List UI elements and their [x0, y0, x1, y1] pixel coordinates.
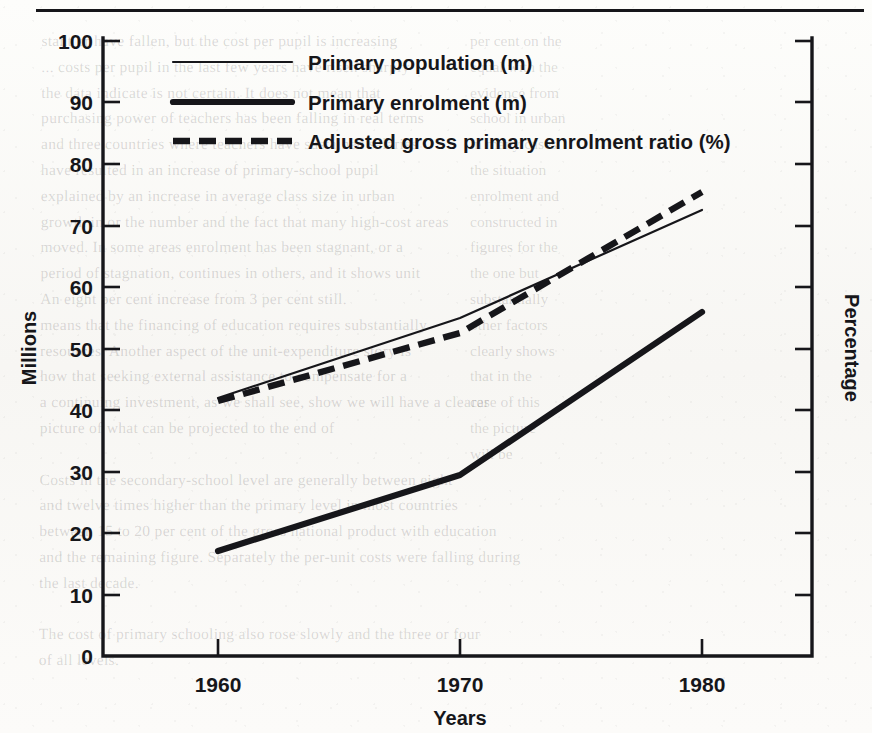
chart-legend: Primary population (m) Primary enrolment…: [173, 51, 731, 153]
y-axis-title: Millions: [18, 311, 40, 385]
line-chart: 100 90 80 70 60 50 40 30 20 10 0 1960 19…: [0, 0, 872, 733]
x-axis-title: Years: [433, 707, 486, 729]
y-axis-ticks: [103, 41, 120, 595]
y-tick-label-50: 50: [70, 338, 93, 361]
y-tick-label-20: 20: [70, 522, 93, 545]
y-tick-label-70: 70: [70, 215, 93, 238]
x-tick-label-1960: 1960: [195, 673, 242, 696]
series-adjusted-gross-ratio: [218, 192, 702, 401]
x-tick-label-1970: 1970: [437, 673, 484, 696]
legend-label-adjusted-gross-ratio: Adjusted gross primary enrolment ratio (…: [308, 130, 731, 153]
y-tick-label-90: 90: [70, 91, 93, 114]
legend-label-primary-population: Primary population (m): [308, 51, 532, 74]
y-tick-label-0: 0: [81, 645, 93, 668]
y-tick-label-10: 10: [70, 584, 93, 607]
y2-axis-title: Percentage: [841, 294, 863, 402]
y-tick-label-40: 40: [70, 399, 93, 422]
y-tick-label-80: 80: [70, 153, 93, 176]
y-tick-label-100: 100: [58, 30, 93, 53]
series-primary-population: [218, 210, 702, 398]
x-tick-label-1980: 1980: [679, 673, 726, 696]
chart-figure: 100 90 80 70 60 50 40 30 20 10 0 1960 19…: [0, 0, 872, 733]
x-axis-ticks: [218, 639, 702, 656]
series-primary-enrolment: [218, 312, 702, 551]
scanned-page: stant or have fallen, but the cost per p…: [0, 0, 872, 733]
legend-label-primary-enrolment: Primary enrolment (m): [308, 91, 527, 114]
y-tick-label-60: 60: [70, 276, 93, 299]
y-tick-label-30: 30: [70, 461, 93, 484]
y2-axis-ticks: [795, 41, 812, 595]
